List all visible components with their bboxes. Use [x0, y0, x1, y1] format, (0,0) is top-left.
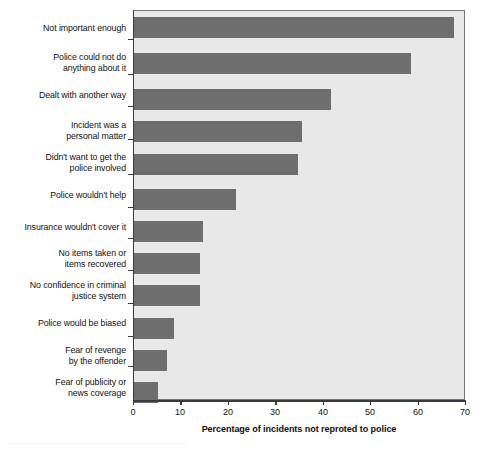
x-axis-tick-label: 30: [270, 406, 280, 417]
bar-police-would-be-biased: [134, 318, 174, 339]
plot-area: [133, 10, 465, 400]
category-label-police-could-not-do-anything: Police could not do anything about it: [5, 52, 126, 73]
bar-not-important-enough: [134, 17, 454, 38]
category-label-didnt-want-police-involved: Didn't want to get the police involved: [5, 152, 126, 173]
bar-no-confidence-justice-system: [134, 285, 200, 306]
category-label-insurance-wouldnt-cover: Insurance wouldn't cover it: [5, 222, 126, 233]
x-axis-tick: [228, 400, 229, 405]
bar-incident-personal-matter: [134, 121, 302, 142]
category-label-incident-personal-matter: Incident was a personal matter: [5, 120, 126, 141]
x-axis-title: Percentage of incidents not reproted to …: [138, 424, 460, 434]
x-axis-tick-label: 20: [223, 406, 233, 417]
bar-police-could-not-do-anything: [134, 53, 411, 74]
bar-insurance-wouldnt-cover: [134, 221, 203, 242]
category-label-column: Not important enough Police could not do…: [0, 10, 126, 400]
category-label-dealt-with-another-way: Dealt with another way: [5, 90, 126, 101]
x-axis-tick-label: 70: [460, 406, 470, 417]
category-label-police-would-be-biased: Police would be biased: [5, 318, 126, 329]
x-axis-tick: [133, 400, 134, 405]
x-axis-tick-label: 60: [413, 406, 423, 417]
x-axis-tick: [323, 400, 324, 405]
category-label-police-wouldnt-help: Police wouldn't help: [5, 190, 126, 201]
bar-dealt-with-another-way: [134, 89, 331, 110]
x-axis-tick: [465, 400, 466, 405]
x-axis-tick-label: 10: [175, 406, 185, 417]
x-axis-tick: [418, 400, 419, 405]
bar-chart-figure: Not important enough Police could not do…: [0, 0, 478, 450]
bar-didnt-want-police-involved: [134, 154, 298, 175]
footnote-caption: ........................................…: [6, 441, 474, 445]
x-axis-tick-label: 40: [318, 406, 328, 417]
category-label-not-important-enough: Not important enough: [5, 23, 126, 34]
category-label-no-items-taken-or-recovered: No items taken or items recovered: [5, 248, 126, 269]
x-axis-tick-label: 50: [365, 406, 375, 417]
x-axis-tick: [275, 400, 276, 405]
bar-police-wouldnt-help: [134, 189, 236, 210]
category-label-fear-of-publicity: Fear of publicity or news coverage: [5, 377, 126, 398]
x-axis-tick: [180, 400, 181, 405]
category-label-fear-of-revenge: Fear of revenge by the offender: [5, 345, 126, 366]
x-axis-line: [133, 400, 465, 402]
category-label-no-confidence-justice-system: No confidence in criminal justice system: [5, 280, 126, 301]
x-axis-tick: [370, 400, 371, 405]
bar-no-items-taken-or-recovered: [134, 253, 200, 274]
bar-fear-of-revenge: [134, 350, 167, 371]
x-axis-tick-label: 0: [130, 406, 135, 417]
